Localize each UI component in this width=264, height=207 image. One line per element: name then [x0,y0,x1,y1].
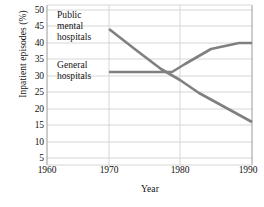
plot-svg [0,0,264,207]
series-annotation-general-hospitals: General hospitals [57,60,91,82]
series-annotation-public-mental-hospitals: Public mental hospitals [57,10,91,44]
chart-container: Inpatient episodes (%) Year 50 45 40 35 … [0,0,264,207]
vertical-gridlines [109,5,180,165]
